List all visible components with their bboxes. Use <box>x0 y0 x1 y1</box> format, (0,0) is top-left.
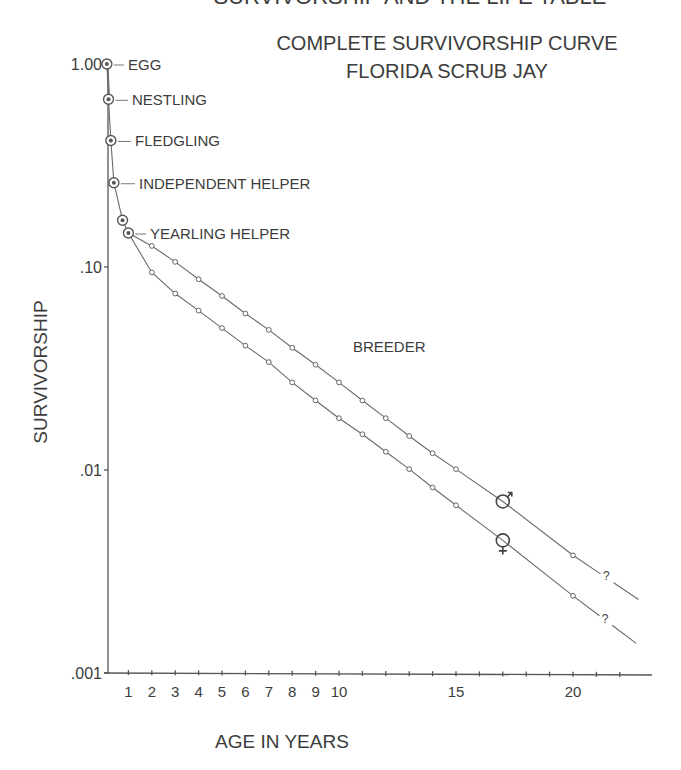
female-data-point <box>290 380 295 385</box>
female-data-point <box>337 416 342 421</box>
y-axis-title: SURVIVORSHIP <box>30 300 51 443</box>
juvenile-curve <box>107 64 129 233</box>
uncertain-marker: ? <box>602 612 609 626</box>
breeder-data-points: ?? <box>149 244 610 626</box>
x-axis-line <box>104 673 652 675</box>
y-axis: 1.00.10.01.001 <box>71 56 108 682</box>
x-tick-label: 9 <box>311 683 319 700</box>
male-data-point <box>407 434 412 439</box>
symbol-cross <box>499 547 507 555</box>
x-axis: 123456789101520 <box>104 670 652 700</box>
female-extrapolation <box>612 625 636 643</box>
male-data-point <box>383 416 388 421</box>
male-data-point <box>196 277 201 282</box>
male-data-point <box>290 345 295 350</box>
male-data-point <box>149 244 154 249</box>
x-tick-label: 15 <box>448 683 465 700</box>
female-data-point <box>383 449 388 454</box>
uncertain-marker: ? <box>603 569 610 583</box>
x-tick-label: 2 <box>148 683 156 700</box>
stage-point-dot <box>107 97 111 101</box>
female-data-point <box>360 432 365 437</box>
female-data-point <box>220 326 225 331</box>
chart-subtitle: FLORIDA SCRUB JAY <box>346 60 548 82</box>
stage-label: EGG <box>128 56 161 73</box>
x-axis-title: AGE IN YEARS <box>215 731 349 752</box>
male-data-point <box>571 553 576 558</box>
female-data-point <box>430 485 435 490</box>
y-tick-label: 1.00 <box>71 56 102 73</box>
female-curve <box>128 233 573 596</box>
stage-point-dot <box>112 181 116 185</box>
x-tick-label: 10 <box>331 683 348 700</box>
x-tick-label: 4 <box>194 683 202 700</box>
stage-point-dot <box>109 138 113 142</box>
female-data-point <box>173 291 178 296</box>
male-data-point <box>220 294 225 299</box>
male-data-point <box>430 451 435 456</box>
male-data-point <box>337 380 342 385</box>
y-tick-label: .10 <box>80 259 102 276</box>
breeder-stage-label: BREEDER <box>353 338 426 355</box>
male-symbol-icon <box>496 492 512 508</box>
stage-label: FLEDGLING <box>135 132 220 149</box>
male-data-point <box>313 362 318 367</box>
female-extrapolation <box>573 596 600 616</box>
juvenile-stage-points: EGGNESTLINGFLEDGLINGINDEPENDENT HELPERYE… <box>102 56 311 242</box>
x-tick-label: 3 <box>171 683 179 700</box>
female-data-point <box>196 308 201 313</box>
male-data-point <box>360 398 365 403</box>
female-data-point <box>454 503 459 508</box>
female-data-point <box>313 398 318 403</box>
chart-title: COMPLETE SURVIVORSHIP CURVE <box>276 32 617 54</box>
x-tick-label: 6 <box>241 683 249 700</box>
stage-point-dot <box>126 231 130 235</box>
y-tick-label: .001 <box>71 665 102 682</box>
survivorship-chart: SURVIVORSHIP AND THE LIFE TABLE COMPLETE… <box>0 0 681 770</box>
male-data-point <box>266 327 271 332</box>
stage-label: INDEPENDENT HELPER <box>139 175 311 192</box>
stage-point-dot <box>105 62 109 66</box>
x-tick-label: 5 <box>218 683 226 700</box>
male-extrapolation <box>614 583 639 600</box>
clipped-page-heading: SURVIVORSHIP AND THE LIFE TABLE <box>214 0 607 9</box>
y-tick-label: .01 <box>80 462 102 479</box>
female-data-point <box>571 593 576 598</box>
symbol-arrow <box>507 492 512 497</box>
male-extrapolation <box>573 555 601 574</box>
female-data-point <box>407 467 412 472</box>
stage-point-dot <box>121 218 125 222</box>
male-data-point <box>173 259 178 264</box>
female-data-point <box>149 270 154 275</box>
male-data-point <box>454 467 459 472</box>
x-tick-label: 1 <box>124 683 132 700</box>
stage-label: YEARLING HELPER <box>150 225 290 242</box>
female-data-point <box>266 360 271 365</box>
female-data-point <box>243 343 248 348</box>
x-tick-label: 20 <box>565 683 582 700</box>
male-data-point <box>243 311 248 316</box>
x-tick-label: 8 <box>288 683 296 700</box>
x-tick-label: 7 <box>265 683 273 700</box>
stage-label: NESTLING <box>132 91 207 108</box>
